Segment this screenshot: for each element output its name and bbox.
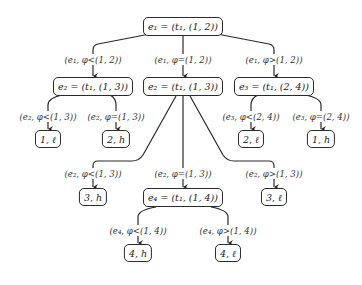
edge-e3-2l [251,95,258,111]
node-e2-mid: e₂ = (t₁, (1, 3)) [143,77,223,96]
node-e4: e₄ = (t₁, (1, 4)) [143,188,223,207]
edge-e2left-2h [110,95,116,111]
edge-e2left-1l [48,95,62,111]
edge-label-root-e2-left: (e₁, φ<(1, 2)) [63,55,122,65]
leaf-4-l: 4, ℓ [215,244,241,262]
edge-label-e3-1h: (e₃, φ=(2, 4)) [291,112,350,122]
edge-e4-4h [138,207,156,225]
edge-label-root-e2-mid: (e₁, φ=(1, 2)) [153,55,212,65]
edge-label-e2mid-3h: (e₂, φ<(1, 3)) [63,169,122,179]
leaf-3-l: 3, ℓ [261,188,287,206]
edge-label-root-e3: (e₁, φ>(1, 2)) [244,55,303,65]
leaf-1-l: 1, ℓ [35,130,61,148]
edge-root-e2-left [93,34,150,54]
edge-label-e4-4l: (e₄, φ>(1, 4)) [198,226,257,236]
leaf-2-h: 2, h [102,130,130,148]
node-e3: e₃ = (t₁, (2, 4)) [234,77,314,96]
edge-root-e3 [217,34,274,54]
leaf-2-l: 2, ℓ [238,130,264,148]
leaf-4-h: 4, h [124,244,152,262]
edge-e4-4l [211,207,228,225]
edge-label-e2mid-e4: (e₂, φ=(1, 3)) [153,169,212,179]
edge-label-e3-2l: (e₃, φ<(2, 4)) [221,112,280,122]
leaf-3-h: 3, h [79,188,107,206]
edge-label-e4-4h: (e₄, φ<(1, 4)) [108,226,167,236]
edge-e3-1h [305,95,321,111]
node-e2-left: e₂ = (t₁, (1, 3)) [53,77,133,96]
node-root: e₁ = (t₁, (1, 2)) [143,17,223,36]
edge-label-e2mid-3l: (e₂, φ>(1, 3)) [244,169,303,179]
leaf-1-h: 1, h [307,130,335,148]
edge-label-e2left-2h: (e₂, φ=(1, 3)) [86,112,145,122]
edge-label-e2left-1l: (e₂, φ<(1, 3)) [18,112,77,122]
